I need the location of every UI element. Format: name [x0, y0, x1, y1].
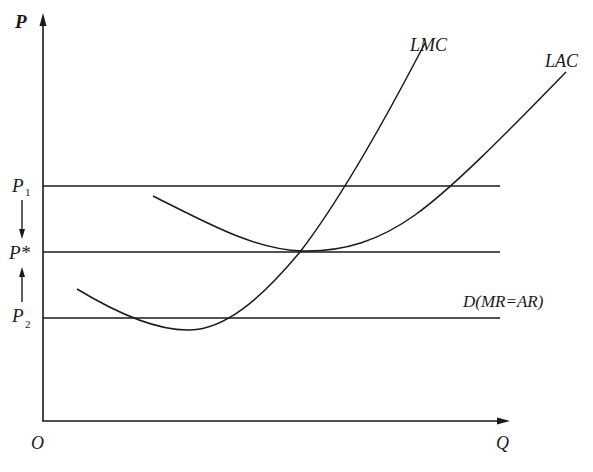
- pstar-label: P*: [8, 242, 31, 263]
- y-axis-label: P: [14, 11, 27, 32]
- demand-label: D(MR=AR): [462, 292, 544, 311]
- cost-curve-diagram: P O Q P 1 P* P 2 LMC LAC D(MR=AR): [0, 0, 593, 472]
- lac-label: LAC: [544, 51, 579, 71]
- background: [0, 0, 593, 472]
- p2-subscript: 2: [25, 318, 31, 330]
- x-axis-label: Q: [496, 433, 509, 453]
- p2-label: P: [11, 305, 24, 326]
- origin-label: O: [31, 433, 44, 453]
- lmc-label: LMC: [409, 35, 448, 55]
- p1-label: P: [11, 175, 24, 196]
- p1-subscript: 1: [25, 186, 31, 198]
